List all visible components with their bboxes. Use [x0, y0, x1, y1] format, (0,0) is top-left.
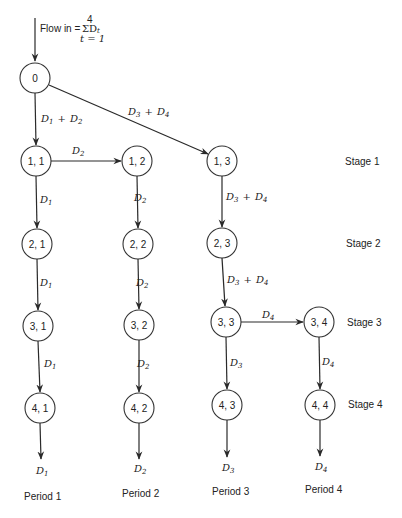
nodes: 0 1, 1 1, 2 1, 3 2, 1 2, 2 2, 3 3, 1 3, …: [20, 63, 335, 423]
svg-text:4, 2: 4, 2: [131, 403, 148, 414]
period-4-label: Period 4: [305, 484, 343, 495]
node-3-4: 3, 4: [304, 307, 334, 337]
flow-in-label: Flow in = 4 ΣDt t = 1: [40, 14, 105, 44]
flow-in-prefix: Flow in =: [40, 23, 80, 34]
stage-labels: Stage 1 Stage 2 Stage 3 Stage 4: [345, 156, 383, 410]
label-edge-31-41: D1: [43, 358, 57, 371]
node-3-2: 3, 2: [124, 310, 154, 340]
svg-text:3, 1: 3, 1: [30, 321, 47, 332]
edge-34-44: [319, 337, 320, 389]
svg-text:4, 3: 4, 3: [219, 400, 236, 411]
svg-text:4, 1: 4, 1: [32, 403, 49, 414]
label-edge-34-44: D4: [321, 356, 335, 369]
output-d2: D2: [133, 463, 147, 476]
svg-text:0: 0: [32, 73, 38, 84]
edge-23-33: [222, 258, 225, 306]
stage-4-label: Stage 4: [348, 399, 383, 410]
svg-text:3, 3: 3, 3: [218, 317, 235, 328]
sum-lower-limit: t = 1: [80, 33, 105, 44]
edges: [35, 85, 320, 459]
network-flow-diagram: Flow in = 4 ΣDt t = 1 0 1, 1 1, 2 1, 3 2…: [0, 0, 402, 518]
label-edge-11-21: D1: [39, 194, 53, 207]
period-labels: Period 1 Period 2 Period 3 Period 4: [24, 484, 343, 502]
svg-text:3, 4: 3, 4: [311, 317, 328, 328]
label-edge-33-43: D3: [229, 357, 243, 370]
node-1-1: 1, 1: [21, 146, 51, 176]
svg-text:2, 3: 2, 3: [214, 238, 231, 249]
svg-text:2, 1: 2, 1: [29, 239, 46, 250]
node-4-3: 4, 3: [212, 390, 242, 420]
stage-1-label: Stage 1: [345, 156, 380, 167]
output-labels: D1 D2 D3 D4: [35, 461, 328, 478]
label-edge-12-22: D2: [133, 192, 147, 205]
output-d4: D4: [314, 461, 328, 474]
period-1-label: Period 1: [24, 491, 62, 502]
svg-text:4, 4: 4, 4: [312, 400, 329, 411]
node-1-2: 1, 2: [122, 146, 152, 176]
label-edge-23-33: D3+D4: [226, 274, 268, 287]
label-edge-13-23: D3+D4: [225, 191, 267, 204]
node-1-3: 1, 3: [207, 146, 237, 176]
period-3-label: Period 3: [212, 486, 250, 497]
node-3-1: 3, 1: [23, 311, 53, 341]
svg-text:2, 2: 2, 2: [130, 239, 147, 250]
edge-labels: D1+D2 D3+D4 D2 D1 D2 D3+D4 D1 D2 D3+D4 D…: [39, 106, 335, 371]
stage-3-label: Stage 3: [347, 317, 382, 328]
svg-text:1, 1: 1, 1: [28, 156, 45, 167]
edge-11-21: [36, 176, 37, 228]
edge-31-41: [38, 341, 40, 392]
node-4-4: 4, 4: [305, 390, 335, 420]
edge-21-31: [37, 259, 38, 310]
label-edge-32-42: D2: [136, 358, 150, 371]
label-edge-21-31: D1: [39, 277, 53, 290]
svg-text:1, 3: 1, 3: [214, 156, 231, 167]
output-d1: D1: [35, 465, 49, 478]
node-2-2: 2, 2: [123, 229, 153, 259]
node-2-1: 2, 1: [22, 229, 52, 259]
label-edge-22-32: D2: [135, 277, 149, 290]
edge-0-11: [35, 93, 36, 145]
label-edge-0-13: D3+D4: [127, 106, 169, 119]
svg-text:1, 2: 1, 2: [129, 156, 146, 167]
output-d3: D3: [221, 462, 235, 475]
node-4-2: 4, 2: [124, 393, 154, 423]
edge-41-out: [40, 423, 41, 459]
label-edge-11-12: D2: [71, 145, 85, 158]
label-edge-33-34: D4: [261, 309, 275, 322]
node-2-3: 2, 3: [207, 228, 237, 258]
stage-2-label: Stage 2: [346, 238, 381, 249]
period-2-label: Period 2: [122, 488, 160, 499]
node-0: 0: [20, 63, 50, 93]
node-4-1: 4, 1: [25, 393, 55, 423]
node-3-3: 3, 3: [211, 307, 241, 337]
label-edge-0-11: D1+D2: [40, 113, 83, 126]
edge-33-43: [226, 337, 227, 389]
svg-text:3, 2: 3, 2: [131, 320, 148, 331]
